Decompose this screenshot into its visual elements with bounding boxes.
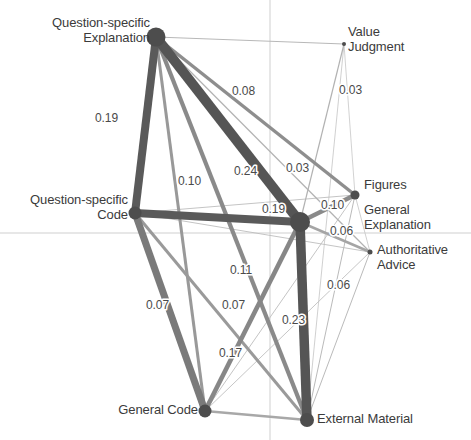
graph-edge-qs_explanation-qs_code xyxy=(135,37,156,213)
edge-weight-label-general_explanation-external_material: 0.23 xyxy=(282,313,305,327)
node-label-external_material: External Material xyxy=(317,412,413,427)
graph-edge-qs_code-general_code xyxy=(135,213,205,411)
graph-node-value_judgment[interactable] xyxy=(342,42,346,46)
node-label-authoritative_advice: Authoritative Advice xyxy=(377,243,448,272)
graph-node-external_material[interactable] xyxy=(300,413,314,427)
node-label-qs_explanation: Question-specific Explanation xyxy=(0,16,150,45)
edge-weight-label-qs_explanation-figures: 0.08 xyxy=(232,84,255,98)
graph-edge-general_code-external_material xyxy=(205,411,307,420)
network-graph-figure: 0.190.190.240.240.080.080.100.100.070.07… xyxy=(0,0,471,440)
edge-weight-label-qs_code-general_code: 0.17 xyxy=(219,346,242,360)
edge-weight-label-general_explanation-authoritative_advice: 0.06 xyxy=(330,224,353,238)
graph-node-qs_code[interactable] xyxy=(129,207,142,220)
graph-edge-general_explanation-value_judgment xyxy=(300,44,344,222)
edge-weight-label-qs_code-external_material: 0.07 xyxy=(222,298,245,312)
node-label-general_explanation: General Explanation xyxy=(364,203,431,232)
graph-node-general_explanation[interactable] xyxy=(290,212,310,232)
edge-weight-label-general_explanation-value_judgment: 0.03 xyxy=(339,83,362,97)
node-label-general_code: General Code xyxy=(0,403,198,418)
edge-weight-label-qs_explanation-external_material: 0.10 xyxy=(178,174,201,188)
edge-weight-label-qs_code-general_explanation: 0.19 xyxy=(262,202,285,216)
edge-weight-label-general_code-external_material: 0.06 xyxy=(327,278,350,292)
edge-weight-label-qs_explanation-qs_code: 0.19 xyxy=(95,111,118,125)
graph-node-figures[interactable] xyxy=(351,191,360,200)
graph-edge-qs_explanation-value_judgment xyxy=(156,37,344,44)
node-label-figures: Figures xyxy=(364,178,407,193)
edge-weight-label-qs_explanation-general_explanation: 0.24 xyxy=(234,164,257,178)
edge-weight-label-general_explanation-figures: 0.10 xyxy=(321,198,344,212)
graph-edge-figures-value_judgment xyxy=(344,44,355,195)
graph-node-authoritative_advice[interactable] xyxy=(368,250,373,255)
edge-weight-label-qs_explanation-authoritative_advice: 0.03 xyxy=(286,161,309,175)
edge-weight-label-qs_explanation-general_code: 0.07 xyxy=(146,298,169,312)
node-label-qs_code: Question-specific Code xyxy=(0,193,128,222)
graph-node-general_code[interactable] xyxy=(199,405,212,418)
node-label-value_judgment: Value Judgment xyxy=(348,25,404,54)
edge-weight-label-general_explanation-general_code: 0.11 xyxy=(230,263,252,277)
